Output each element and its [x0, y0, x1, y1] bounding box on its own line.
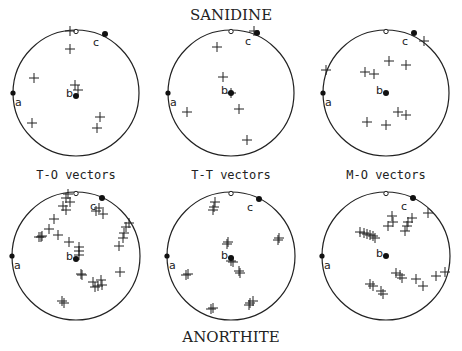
- axis-b-dot-icon: [73, 256, 79, 262]
- axis-c-dot-icon: [99, 195, 105, 201]
- plus-marker-icon: [369, 69, 379, 79]
- plus-marker-icon: [234, 104, 244, 114]
- column-label-tt: T-T vectors: [191, 168, 270, 182]
- column-label-mo: M-O vectors: [346, 168, 425, 182]
- plus-marker-icon: [274, 233, 284, 243]
- axis-a-label: a: [169, 259, 176, 272]
- plus-marker-icon: [76, 269, 86, 279]
- stereonet-sanidine-to: abc: [10, 26, 139, 156]
- axis-a-dot-icon: [320, 90, 325, 95]
- north-marker-icon: [229, 29, 233, 33]
- axis-c-label: c: [402, 35, 408, 48]
- axis-c-dot-icon: [102, 31, 108, 37]
- axis-c-label: c: [90, 200, 96, 213]
- axis-c-label: c: [247, 201, 253, 214]
- axis-b-dot-icon: [73, 93, 79, 99]
- axis-a-label: a: [324, 259, 331, 272]
- axis-b-dot-icon: [383, 253, 389, 259]
- plus-marker-icon: [183, 269, 193, 279]
- plus-marker-icon: [381, 120, 391, 130]
- plus-marker-icon: [49, 214, 59, 224]
- plus-marker-icon: [235, 268, 245, 278]
- plus-marker-icon: [418, 281, 428, 291]
- plus-marker-icon: [181, 270, 191, 280]
- plus-marker-icon: [384, 56, 394, 66]
- plus-marker-icon: [115, 267, 125, 277]
- plus-marker-icon: [401, 60, 411, 70]
- plus-marker-icon: [362, 117, 372, 127]
- north-marker-icon: [74, 191, 78, 195]
- axis-a-label: a: [325, 96, 332, 109]
- plus-marker-icon: [212, 42, 222, 52]
- plus-marker-icon: [234, 266, 244, 276]
- axis-c-dot-icon: [411, 30, 417, 36]
- plus-marker-icon: [210, 197, 220, 207]
- plus-marker-icon: [59, 298, 69, 308]
- plus-marker-icon: [119, 228, 129, 238]
- plus-marker-icon: [400, 226, 410, 236]
- plus-marker-icon: [65, 26, 75, 36]
- plus-marker-icon: [182, 107, 192, 117]
- axis-b-label: b: [376, 247, 383, 260]
- axis-a-label: a: [14, 259, 21, 272]
- axis-a-dot-icon: [319, 253, 324, 258]
- axis-a-dot-icon: [9, 253, 14, 258]
- plus-marker-icon: [223, 237, 233, 247]
- axis-b-label: b: [376, 84, 383, 97]
- axis-a-label: a: [15, 96, 22, 109]
- axis-b-label: b: [66, 87, 73, 100]
- axis-c-label: c: [93, 36, 99, 49]
- axis-a-dot-icon: [165, 90, 170, 95]
- plus-marker-icon: [92, 123, 102, 133]
- plus-marker-icon: [53, 230, 63, 240]
- axis-a-dot-icon: [10, 90, 15, 95]
- north-marker-icon: [384, 191, 388, 195]
- stereonet-anorthite-to: abc: [9, 189, 140, 320]
- plus-marker-icon: [95, 112, 105, 122]
- bottom-title: ANORTHITE: [181, 328, 279, 346]
- stereonet-anorthite-mo: abc: [319, 191, 450, 320]
- stereonet-sanidine-mo: abc: [320, 29, 449, 156]
- axis-b-label: b: [66, 250, 73, 263]
- plus-marker-icon: [419, 36, 429, 46]
- plus-marker-icon: [64, 237, 74, 247]
- plus-marker-icon: [242, 135, 252, 145]
- plus-marker-icon: [44, 224, 54, 234]
- plus-marker-icon: [411, 274, 421, 284]
- plus-marker-icon: [423, 208, 433, 218]
- axis-b-dot-icon: [228, 90, 234, 96]
- plus-marker-icon: [218, 72, 228, 82]
- plus-marker-icon: [360, 67, 370, 77]
- axis-b-dot-icon: [228, 255, 234, 261]
- plus-marker-icon: [222, 239, 232, 249]
- axis-a-dot-icon: [164, 253, 169, 258]
- axis-c-label: c: [401, 200, 407, 213]
- plus-marker-icon: [29, 73, 39, 83]
- axis-c-label: c: [245, 35, 251, 48]
- axis-b-dot-icon: [383, 90, 389, 96]
- axis-b-label: b: [221, 249, 228, 262]
- stereonet-anorthite-tt: abc: [164, 191, 295, 320]
- axis-b-label: b: [221, 84, 228, 97]
- column-label-to: T-O vectors: [36, 168, 115, 182]
- stereographic-projection-figure: SANIDINE T-O vectors T-T vectors M-O vec…: [0, 0, 462, 351]
- plus-marker-icon: [65, 44, 75, 54]
- axis-c-dot-icon: [256, 196, 262, 202]
- north-marker-icon: [229, 191, 233, 195]
- plus-marker-icon: [206, 304, 216, 314]
- north-marker-icon: [384, 29, 388, 33]
- plus-marker-icon: [77, 270, 87, 280]
- stereonet-sanidine-tt: abc: [165, 26, 294, 156]
- plus-marker-icon: [208, 303, 218, 313]
- axis-c-dot-icon: [254, 30, 260, 36]
- axis-a-label: a: [170, 96, 177, 109]
- plus-marker-icon: [27, 118, 37, 128]
- axis-c-dot-icon: [410, 195, 416, 201]
- plus-marker-icon: [387, 211, 397, 221]
- plus-marker-icon: [431, 271, 441, 281]
- top-title: SANIDINE: [190, 6, 272, 24]
- plus-marker-icon: [57, 296, 67, 306]
- plus-marker-icon: [273, 235, 283, 245]
